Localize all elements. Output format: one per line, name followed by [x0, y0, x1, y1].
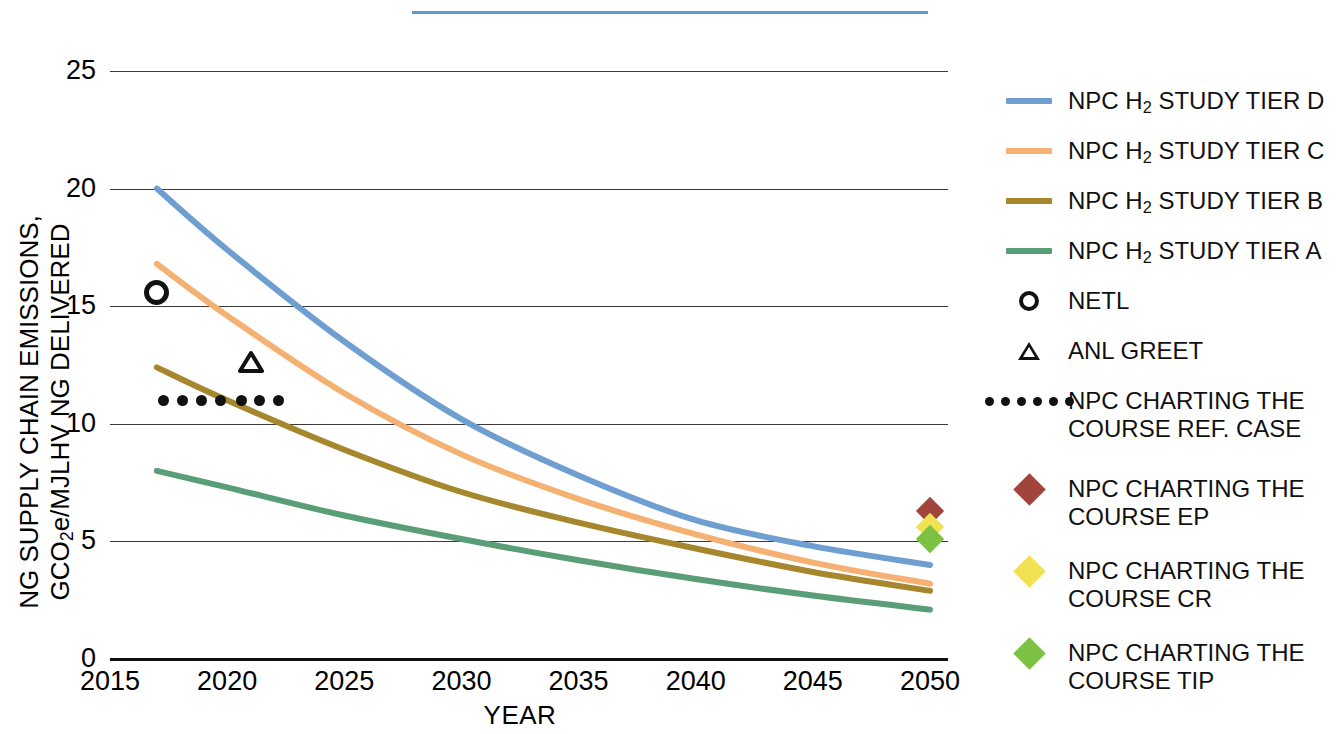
x-axis-title: YEAR: [380, 700, 660, 731]
line-swatch-icon: [1006, 198, 1052, 204]
chart-plot-region: NG SUPPLY CHAIN EMISSIONS, GCO2e/MJLHV N…: [0, 0, 990, 734]
legend-item-label: NPC CHARTING THE COURSE CR: [1068, 556, 1304, 613]
legend-item[interactable]: NPC CHARTING THE COURSE TIP: [990, 638, 1336, 695]
legend-item-label: NPC H2 STUDY TIER D: [1068, 86, 1324, 121]
legend-item[interactable]: NPC H2 STUDY TIER D: [990, 86, 1336, 121]
series-line: [157, 471, 930, 610]
chart-page: NG SUPPLY CHAIN EMISSIONS, GCO2e/MJLHV N…: [0, 0, 1336, 734]
legend-item[interactable]: ANL GREET: [990, 336, 1336, 366]
diamond-marker-icon: [1013, 637, 1046, 670]
triangle-marker-icon: [990, 336, 1068, 366]
series-curves: [0, 0, 990, 734]
triangle-marker-icon: [1018, 342, 1040, 360]
line-swatch-icon: [990, 86, 1068, 116]
circle-marker-icon: [990, 286, 1068, 316]
diamond-marker-icon: [990, 638, 1068, 668]
legend-item[interactable]: NPC CHARTING THE COURSE REF. CASE: [990, 386, 1336, 443]
dotted-line-icon: [990, 386, 1068, 416]
dotted-line-icon: [985, 397, 1074, 406]
legend-item[interactable]: NPC H2 STUDY TIER B: [990, 186, 1336, 221]
legend-item[interactable]: NPC CHARTING THE COURSE CR: [990, 556, 1336, 613]
ref-case-dot-marker: [177, 395, 188, 406]
legend-item-label: NPC H2 STUDY TIER A: [1068, 236, 1322, 271]
line-swatch-icon: [990, 186, 1068, 216]
legend-item-label: ANL GREET: [1068, 336, 1203, 365]
anl-greet-triangle-marker: [236, 349, 266, 375]
circle-marker-icon: [1019, 291, 1039, 311]
ref-case-dot-marker: [196, 395, 207, 406]
diamond-marker-icon: [1013, 555, 1046, 588]
diamond-marker-icon: [1013, 473, 1046, 506]
ref-case-dot-marker: [273, 395, 284, 406]
series-line: [157, 264, 930, 584]
line-swatch-icon: [1006, 148, 1052, 154]
legend-item[interactable]: NPC CHARTING THE COURSE EP: [990, 474, 1336, 531]
ref-case-dot-marker: [215, 395, 226, 406]
netl-circle-marker: [144, 280, 169, 305]
legend-item[interactable]: NETL: [990, 286, 1336, 316]
diamond-marker-icon: [990, 474, 1068, 504]
legend-item[interactable]: NPC H2 STUDY TIER C: [990, 136, 1336, 171]
line-swatch-icon: [1006, 98, 1052, 104]
legend-item-label: NPC H2 STUDY TIER C: [1068, 136, 1324, 171]
legend-item-label: NPC CHARTING THE COURSE EP: [1068, 474, 1304, 531]
line-swatch-icon: [990, 236, 1068, 266]
ref-case-dot-marker: [236, 395, 247, 406]
legend-item-label: NPC H2 STUDY TIER B: [1068, 186, 1323, 221]
series-line: [157, 189, 930, 565]
legend-item-label: NPC CHARTING THE COURSE TIP: [1068, 638, 1304, 695]
legend-item[interactable]: NPC H2 STUDY TIER A: [990, 236, 1336, 271]
diamond-marker-icon: [990, 556, 1068, 586]
line-swatch-icon: [990, 136, 1068, 166]
line-swatch-icon: [1006, 248, 1052, 254]
legend-item-label: NPC CHARTING THE COURSE REF. CASE: [1068, 386, 1304, 443]
legend-item-label: NETL: [1068, 286, 1129, 315]
